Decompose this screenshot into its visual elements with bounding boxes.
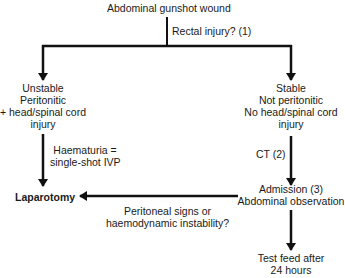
test-feed-node: Test feed after 24 hours (251, 252, 331, 276)
stable-node: Stable Not peritonitic No head/spinal co… (237, 82, 345, 130)
admission-node: Admission (3) Abdominal observation (235, 183, 345, 207)
haematuria-label: Haematuria = single-shot IVP (50, 144, 120, 168)
laparotomy-node: Laparotomy (15, 191, 75, 203)
peritoneal-signs-label: Peritoneal signs or haemodynamic instabi… (100, 205, 235, 229)
diagram-connectors (0, 0, 345, 278)
ct-label: CT (2) (256, 148, 286, 160)
rectal-injury-label: Rectal injury? (1) (172, 25, 251, 37)
root-node: Abdominal gunshot wound (107, 2, 227, 14)
unstable-node: Unstable Peritonitic + head/spinal cord … (0, 82, 93, 130)
